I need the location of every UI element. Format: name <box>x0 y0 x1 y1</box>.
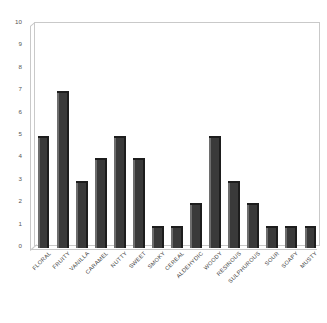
bar[interactable] <box>228 181 240 248</box>
bar-top-face <box>57 91 69 93</box>
y-axis-tick-labels: 012345678910 <box>0 0 28 323</box>
x-axis-label-floral: FLORAL <box>31 250 52 271</box>
bar[interactable] <box>133 158 145 248</box>
bar-right-face <box>257 203 259 248</box>
bar-left-face <box>152 226 154 248</box>
bar[interactable] <box>190 203 202 248</box>
bar-slot <box>190 24 202 248</box>
bar-top-face <box>152 226 164 228</box>
y-axis-tick-6: 6 <box>18 108 22 114</box>
bar-top-face <box>266 226 278 228</box>
bar-right-face <box>67 91 69 248</box>
bar[interactable] <box>247 203 259 248</box>
bar-chart: 012345678910 FLORALFRUITYVANILLACARAMELN… <box>0 0 327 323</box>
bar-left-face <box>76 181 78 248</box>
bar-right-face <box>162 226 164 248</box>
bar-slot <box>152 24 164 248</box>
y-axis-tick-9: 9 <box>18 41 22 47</box>
bars-container <box>34 22 320 250</box>
bar-top-face <box>305 226 317 228</box>
bar-right-face <box>200 203 202 248</box>
bar-right-face <box>314 226 316 248</box>
x-axis-label-sour: SOUR <box>264 250 280 266</box>
bar[interactable] <box>209 136 221 248</box>
bar-right-face <box>238 181 240 248</box>
bar[interactable] <box>95 158 107 248</box>
bar-slot <box>247 24 259 248</box>
x-axis-label-musty: MUSTY <box>299 250 318 269</box>
bar[interactable] <box>57 91 69 248</box>
bar[interactable] <box>76 181 88 248</box>
bar-slot <box>285 24 297 248</box>
bar[interactable] <box>171 226 183 248</box>
bar-right-face <box>143 158 145 248</box>
bar[interactable] <box>38 136 50 248</box>
bar-left-face <box>133 158 135 248</box>
bar-right-face <box>219 136 221 248</box>
bar-slot <box>228 24 240 248</box>
y-axis-tick-1: 1 <box>18 220 22 226</box>
bar-right-face <box>47 136 49 248</box>
x-axis-tick-labels: FLORALFRUITYVANILLACARAMELNUTTYSWEETSMOK… <box>34 250 320 323</box>
bar-right-face <box>124 136 126 248</box>
bar-left-face <box>305 226 307 248</box>
bar-left-face <box>190 203 192 248</box>
bar-left-face <box>228 181 230 248</box>
x-axis-label-nutty: NUTTY <box>109 250 127 268</box>
bar-left-face <box>247 203 249 248</box>
x-axis-label-sweet: SWEET <box>128 250 147 269</box>
bar-slot <box>38 24 50 248</box>
bar-slot <box>57 24 69 248</box>
y-axis-tick-2: 2 <box>18 198 22 204</box>
bar-left-face <box>209 136 211 248</box>
bar-left-face <box>57 91 59 248</box>
bar-left-face <box>38 136 40 248</box>
y-axis-tick-5: 5 <box>18 131 22 137</box>
bar-slot <box>209 24 221 248</box>
bar-top-face <box>133 158 145 160</box>
bar-left-face <box>95 158 97 248</box>
y-axis-tick-4: 4 <box>18 153 22 159</box>
y-axis-tick-7: 7 <box>18 86 22 92</box>
bar[interactable] <box>266 226 278 248</box>
x-axis-label-text: SOUR <box>265 251 281 267</box>
bar-slot <box>76 24 88 248</box>
x-axis-label-text: MUSTY <box>300 251 319 270</box>
bar-slot <box>305 24 317 248</box>
y-axis-tick-10: 10 <box>15 19 22 25</box>
x-axis-label-text: NUTTY <box>110 251 128 269</box>
bar-top-face <box>114 136 126 138</box>
x-axis-label-text: SWEET <box>128 251 147 270</box>
bar-top-face <box>190 203 202 205</box>
y-axis-tick-0: 0 <box>18 243 22 249</box>
bar-top-face <box>247 203 259 205</box>
bar-right-face <box>86 181 88 248</box>
bar[interactable] <box>305 226 317 248</box>
bar-top-face <box>228 181 240 183</box>
y-axis-tick-8: 8 <box>18 64 22 70</box>
bar-top-face <box>285 226 297 228</box>
bar-top-face <box>95 158 107 160</box>
x-axis-label-soapy: SOAPY <box>281 250 300 269</box>
bar-right-face <box>105 158 107 248</box>
bar-slot <box>133 24 145 248</box>
bar-top-face <box>171 226 183 228</box>
bar-left-face <box>266 226 268 248</box>
bar-top-face <box>38 136 50 138</box>
bar-right-face <box>276 226 278 248</box>
bar-slot <box>266 24 278 248</box>
bar-right-face <box>295 226 297 248</box>
bar-left-face <box>171 226 173 248</box>
bar-slot <box>171 24 183 248</box>
x-axis-label-text: SOAPY <box>281 251 300 270</box>
bar[interactable] <box>285 226 297 248</box>
x-axis-label-text: FLORAL <box>31 251 52 272</box>
bar-slot <box>114 24 126 248</box>
bar-top-face <box>76 181 88 183</box>
bar-left-face <box>114 136 116 248</box>
y-axis-tick-3: 3 <box>18 176 22 182</box>
bar[interactable] <box>114 136 126 248</box>
bar-slot <box>95 24 107 248</box>
bar[interactable] <box>152 226 164 248</box>
bar-right-face <box>181 226 183 248</box>
